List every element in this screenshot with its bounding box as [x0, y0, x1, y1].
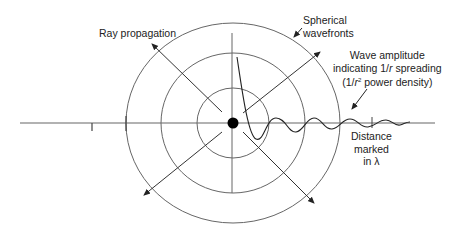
- ray-down-left: [144, 132, 222, 195]
- ray-up-right: [243, 52, 320, 113]
- point-source-icon: [228, 118, 239, 129]
- label-wave-amplitude: Wave amplitude indicating 1/r spreading …: [333, 49, 442, 89]
- label-ray-propagation: Ray propagation: [99, 27, 176, 40]
- wavefronts-pointer: [294, 28, 302, 37]
- amplitude-pointer: [352, 89, 367, 109]
- label-distance: Distance marked in λ: [351, 130, 392, 168]
- ray-up-left: [152, 44, 222, 112]
- wave-propagation-diagram: [0, 0, 457, 230]
- ray-down-right: [243, 132, 314, 203]
- label-spherical-wavefronts: Spherical wavefronts: [303, 14, 354, 39]
